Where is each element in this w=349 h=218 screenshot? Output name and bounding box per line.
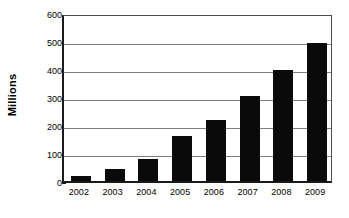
bar-2009 bbox=[307, 43, 327, 181]
x-tick-label: 2009 bbox=[295, 188, 335, 198]
y-tick-label: 100 bbox=[28, 151, 62, 160]
plot-area bbox=[62, 15, 332, 183]
bar-2004 bbox=[138, 159, 158, 181]
y-tick-label: 500 bbox=[28, 39, 62, 48]
y-tick-label: 600 bbox=[28, 11, 62, 20]
y-tick-mark bbox=[62, 183, 66, 184]
y-tick-label: 300 bbox=[28, 95, 62, 104]
y-tick-label: 400 bbox=[28, 67, 62, 76]
y-tick-label: 200 bbox=[28, 123, 62, 132]
bars-group bbox=[64, 16, 331, 181]
bar-2002 bbox=[71, 176, 91, 181]
bar-chart: Millions 0100200300400500600 20022003200… bbox=[0, 0, 349, 218]
y-axis-title-text: Millions bbox=[6, 74, 18, 117]
x-axis-tick-labels: 20022003200420052006200720082009 bbox=[62, 188, 332, 208]
bar-2007 bbox=[240, 96, 260, 181]
y-axis-tick-labels: 0100200300400500600 bbox=[20, 15, 62, 183]
bar-2003 bbox=[105, 169, 125, 181]
bar-2008 bbox=[273, 70, 293, 181]
bar-2006 bbox=[206, 120, 226, 181]
bar-2005 bbox=[172, 136, 192, 181]
y-tick-label: 0 bbox=[28, 179, 62, 188]
